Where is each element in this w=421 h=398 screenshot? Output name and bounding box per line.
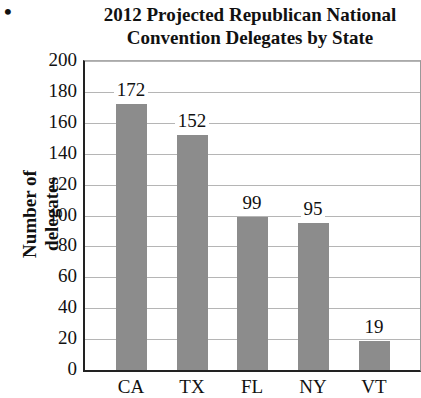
y-tick-label: 100 <box>27 205 77 224</box>
y-tick-label: 120 <box>27 174 77 193</box>
bar-value-label: 152 <box>175 111 209 130</box>
y-tick-label: 40 <box>27 297 77 316</box>
chart-title-line-1: 2012 Projected Republican National <box>80 3 420 26</box>
y-tick-label: 20 <box>27 328 77 347</box>
bar-value-label: 95 <box>301 199 325 218</box>
y-tick-label: 140 <box>27 143 77 162</box>
bar-value-label: 19 <box>362 317 386 336</box>
plot-area: 172152999519 <box>83 60 421 372</box>
bar-value-label: 172 <box>114 80 148 99</box>
y-tick-label: 200 <box>27 50 77 69</box>
bar-value-label: 99 <box>240 193 264 212</box>
gridline <box>85 61 420 62</box>
bar-tx <box>177 135 208 370</box>
x-tick-label: FL <box>227 377 277 396</box>
bar-ca <box>116 104 147 370</box>
y-tick-label: 60 <box>27 266 77 285</box>
bar-ny <box>298 223 329 370</box>
chart-title: 2012 Projected Republican National Conve… <box>80 3 420 49</box>
y-tick-label: 80 <box>27 235 77 254</box>
y-tick-label: 180 <box>27 81 77 100</box>
bar-fl <box>237 217 268 370</box>
y-tick-label: 0 <box>27 359 77 378</box>
bullet-marker: • <box>4 2 12 22</box>
x-tick-label: VT <box>349 377 399 396</box>
chart-title-line-2: Convention Delegates by State <box>80 26 420 49</box>
y-tick-label: 160 <box>27 112 77 131</box>
x-tick-label: TX <box>167 377 217 396</box>
x-tick-label: CA <box>106 377 156 396</box>
x-tick-label: NY <box>288 377 338 396</box>
bar-vt <box>359 341 390 370</box>
